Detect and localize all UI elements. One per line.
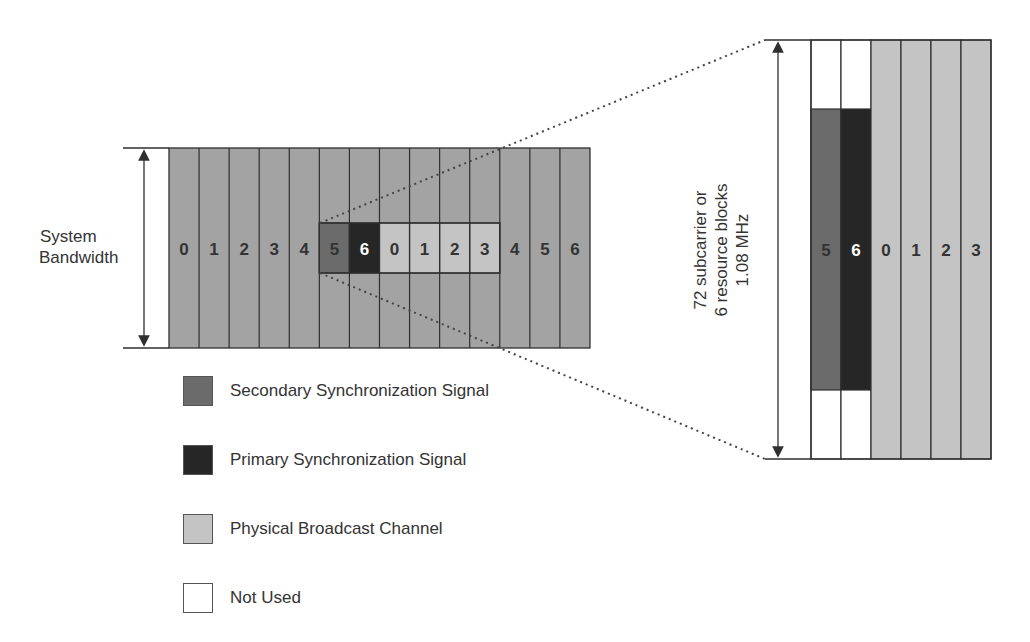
symbol-label: 1	[911, 241, 920, 260]
symbol-label: 0	[881, 241, 890, 260]
symbol-label: 3	[480, 240, 489, 259]
legend-item-pbch: Physical Broadcast Channel	[183, 513, 443, 545]
legend-label: Secondary Synchronization Signal	[230, 381, 489, 401]
not-used-swatch-icon	[183, 583, 213, 613]
system-bandwidth-label-1: System	[40, 227, 97, 246]
symbol-label: 6	[360, 240, 369, 259]
system-bandwidth-label-2: Bandwidth	[39, 248, 118, 267]
symbol-label: 3	[270, 240, 279, 259]
symbol-label: 5	[330, 240, 339, 259]
zoom-dimension-label-3: 1.08 MHz	[733, 214, 752, 287]
symbol-label: 2	[450, 240, 459, 259]
symbol-label: 3	[971, 241, 980, 260]
legend-item-sss: Secondary Synchronization Signal	[183, 375, 489, 407]
symbol-label: 2	[941, 241, 950, 260]
symbol-label: 0	[179, 240, 188, 259]
symbol-label: 6	[851, 241, 860, 260]
resource-grid: 01234560123456	[169, 148, 590, 348]
symbol-label: 4	[300, 240, 310, 259]
symbol-label: 4	[510, 240, 520, 259]
pbch-swatch-icon	[183, 514, 213, 544]
zoomed-dimension: 72 subcarrier or 6 resource blocks 1.08 …	[691, 40, 811, 459]
legend-label: Primary Synchronization Signal	[230, 450, 466, 470]
legend-label: Not Used	[230, 588, 301, 608]
zoom-dimension-label-2: 6 resource blocks	[712, 183, 731, 316]
lte-sync-signal-diagram: System Bandwidth 01234560123456 72 subca…	[0, 0, 1030, 642]
sss-swatch-icon	[183, 376, 213, 406]
symbol-label: 2	[239, 240, 248, 259]
zoomed-resource-grid: 560123	[811, 40, 991, 459]
symbol-label: 1	[209, 240, 218, 259]
pss-swatch-icon	[183, 445, 213, 475]
symbol-label: 0	[390, 240, 399, 259]
legend-item-not-used: Not Used	[183, 582, 301, 614]
zoom-dimension-label-1: 72 subcarrier or	[691, 190, 710, 309]
symbol-label: 5	[540, 240, 549, 259]
system-bandwidth-dimension: System Bandwidth	[39, 148, 169, 348]
legend-item-pss: Primary Synchronization Signal	[183, 444, 466, 476]
symbol-label: 5	[821, 241, 830, 260]
symbol-label: 6	[570, 240, 579, 259]
symbol-label: 1	[420, 240, 429, 259]
legend-label: Physical Broadcast Channel	[230, 519, 443, 539]
